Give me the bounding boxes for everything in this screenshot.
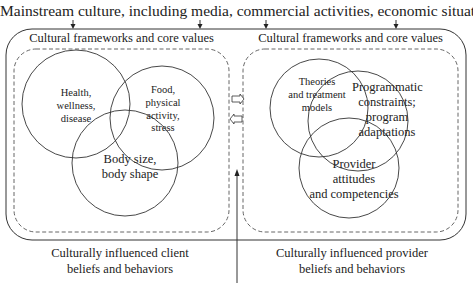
left-frame-label: Cultural frameworks and core values xyxy=(14,31,229,45)
circle-label-food: Food, physical activity, stress xyxy=(133,84,193,135)
left-caption: Culturally influenced client beliefs and… xyxy=(20,245,220,278)
left-dashed-frame xyxy=(14,49,229,232)
circle-label-health: Health, wellness, disease xyxy=(46,87,106,125)
circle-label-programmatic: Programmatic constraints; program adapta… xyxy=(352,80,422,140)
up-arrow xyxy=(235,169,240,283)
right-caption: Culturally influenced provider beliefs a… xyxy=(252,245,452,278)
circle-label-theories: Theories and treatment models xyxy=(282,76,352,114)
circle-label-provider: Provider attitudes and competencies xyxy=(304,157,404,202)
top-arrows xyxy=(71,20,399,29)
left-hollow-arrow xyxy=(230,114,242,124)
right-hollow-arrow xyxy=(232,94,244,104)
circle-label-body-size: Body size, body shape xyxy=(95,152,165,182)
right-frame-label: Cultural frameworks and core values xyxy=(243,31,458,45)
diagram-title: Mainstream culture, including media, com… xyxy=(0,2,473,20)
